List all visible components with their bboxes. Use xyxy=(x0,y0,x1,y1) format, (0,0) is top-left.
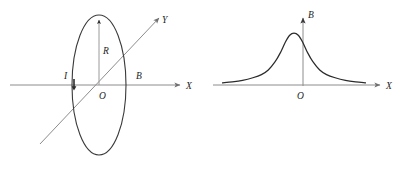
physics-figure: I R B O X Y B O X xyxy=(0,0,403,171)
left-x-axis-label: X xyxy=(185,81,193,91)
figure-root: I R B O X Y B O X xyxy=(0,0,403,171)
right-panel-group: B O X xyxy=(213,10,393,101)
left-y-axis-label: Y xyxy=(162,15,169,25)
left-origin-label: O xyxy=(99,91,106,101)
current-label: I xyxy=(63,71,68,81)
field-profile-curve xyxy=(222,33,366,83)
radius-label: R xyxy=(102,46,109,56)
right-origin-label: O xyxy=(297,91,304,101)
right-b-axis-label: B xyxy=(308,10,314,20)
magnetic-field-label: B xyxy=(136,71,142,81)
left-panel-group: I R B O X Y xyxy=(10,15,193,155)
right-x-axis-label: X xyxy=(385,81,393,91)
